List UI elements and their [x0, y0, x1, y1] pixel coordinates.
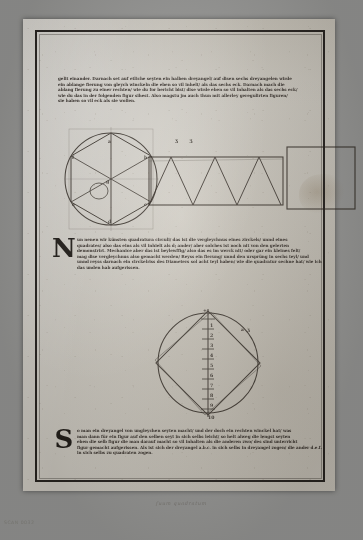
text-line: das unden hab aufgerissen.: [77, 265, 354, 271]
figure-oblong-rectangle: [285, 145, 357, 211]
scale-label: 7: [210, 383, 213, 388]
text-line: unnd reyss darnach ein circkelriss des D…: [77, 259, 354, 265]
rectangle-outline: [287, 147, 355, 209]
scan-canvas: gelit einander. Darnach set auf etliche …: [0, 0, 363, 540]
text-line: in sich selbs zu quadraten zogen.: [77, 450, 354, 456]
text-line: sie haben so vil eck als sie wollen.: [58, 98, 354, 104]
scale-label: 2: [210, 333, 213, 338]
paragraph-middle: un nenen wir künsten quadratura circuli/…: [77, 237, 354, 270]
vertex-label: f: [72, 155, 75, 160]
scale-label: 8: [210, 393, 213, 398]
bleed-through-text: ſuum quadratum: [156, 500, 244, 514]
paragraph-bottom: o man ein dreyangel von ungleychen seyte…: [77, 428, 354, 456]
scale-label: 10: [208, 415, 214, 420]
scale-label: 1: [210, 323, 213, 328]
scale-label: 3: [210, 343, 213, 348]
decorated-initial-middle: N: [50, 234, 78, 262]
scale-label: 4: [210, 353, 214, 358]
scale-top-label: +: [203, 308, 207, 313]
decorated-initial-bottom: S: [50, 425, 78, 453]
zigzag-triangles: [149, 157, 281, 205]
scale-label: 6: [210, 373, 213, 378]
scan-plate-caption: SCAN 0032: [4, 520, 124, 532]
scale-label: 9: [210, 403, 213, 408]
center-loop: [90, 183, 108, 199]
figure-quadrature-of-the-circle: + 1 2 3 4 5 6 7 8 9 10: [141, 305, 275, 421]
vertex-label: e: [72, 202, 75, 207]
paragraph-top: gelit einander. Darnach set auf etliche …: [58, 76, 354, 104]
scale-label: 5: [210, 363, 213, 368]
vertex-label: a: [108, 139, 111, 144]
book-page-leaf: gelit einander. Darnach set auf etliche …: [23, 19, 335, 491]
figure-triangle-strip-in-oblong: [147, 149, 287, 211]
figure-mark-triangle-strip: ʒ ʒ: [175, 137, 197, 143]
oblong-outline: [149, 157, 283, 205]
